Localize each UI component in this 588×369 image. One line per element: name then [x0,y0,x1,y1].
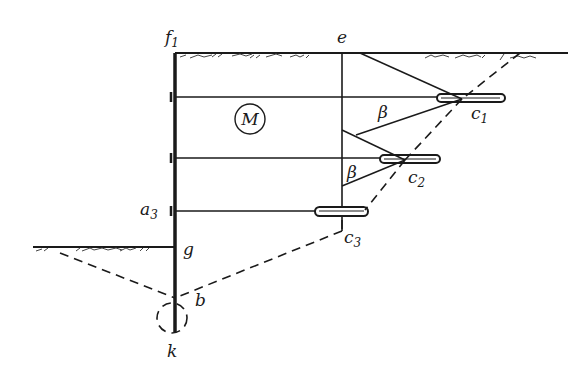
beta-angle-lines [342,53,462,186]
label-g: g [183,239,194,259]
label-c2: c2 [408,167,425,190]
rotation-circle [157,303,187,333]
lower-ground-surface [33,247,175,251]
label-c3: c3 [344,227,362,250]
label-c1: c1 [471,103,488,126]
label-f1: f1 [163,27,179,50]
label-beta-upper: β [377,102,388,122]
label-a3: a3 [140,199,158,222]
label-e: e [337,27,347,47]
label-beta-lower: β [346,162,357,182]
label-k: k [167,341,177,361]
label-b: b [195,290,206,310]
wall-diagram: M f1 e β β c1 c2 c3 a3 g b k [0,0,588,369]
label-M: M [240,109,259,129]
